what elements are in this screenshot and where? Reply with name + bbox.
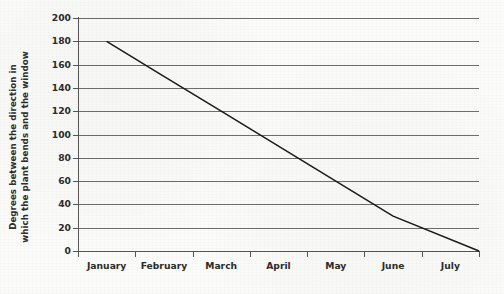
- y-axis-tick-label: 100: [52, 129, 71, 140]
- y-axis-tick-label: 20: [58, 222, 71, 233]
- series-line-plant-bend-angle: [78, 18, 479, 252]
- y-axis-tick-label: 0: [65, 245, 71, 256]
- y-axis-tick-label: 180: [52, 35, 71, 46]
- y-axis-tick-label: 60: [58, 175, 71, 186]
- y-axis-tick-label: 200: [52, 12, 71, 23]
- y-axis-tick-label: 120: [52, 105, 71, 116]
- y-axis-title: Degrees between the direction in which t…: [0, 0, 40, 294]
- y-axis-tick-label: 160: [52, 59, 71, 70]
- y-axis-tick-label: 140: [52, 82, 71, 93]
- line-chart-figure: Degrees between the direction in which t…: [0, 0, 504, 294]
- x-axis-tick-label: July: [410, 260, 490, 271]
- y-axis-tick-label: 40: [58, 198, 71, 209]
- plot-area: 020406080100120140160180200 JanuaryFebru…: [78, 18, 479, 252]
- y-axis-tick-label: 80: [58, 152, 71, 163]
- x-axis-tick-mark: [479, 251, 480, 257]
- y-axis-title-text: Degrees between the direction in which t…: [8, 51, 31, 243]
